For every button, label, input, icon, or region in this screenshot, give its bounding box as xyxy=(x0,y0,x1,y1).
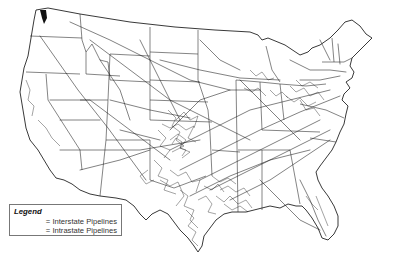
legend-label: Interstate Pipelines xyxy=(52,217,117,227)
legend-box: Legend = Interstate Pipelines = Intrasta… xyxy=(9,204,122,236)
legend-symbol: = xyxy=(46,226,50,236)
legend-item-interstate: = Interstate Pipelines xyxy=(14,217,117,227)
puget-sound-pipelines xyxy=(40,10,47,24)
legend-item-intrastate: = Intrastate Pipelines xyxy=(14,226,117,236)
state-borders xyxy=(26,14,352,212)
legend-symbol: = xyxy=(46,217,50,227)
legend-title: Legend xyxy=(14,207,117,217)
legend-label: Intrastate Pipelines xyxy=(52,226,117,236)
